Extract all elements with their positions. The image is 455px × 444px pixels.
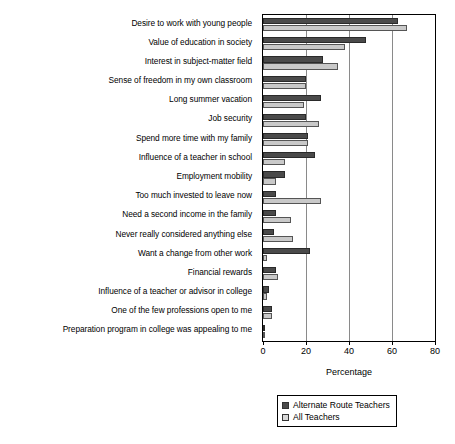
category-label: Never really considered anything else <box>115 230 252 239</box>
bar <box>263 63 338 69</box>
category-label: Preparation program in college was appea… <box>63 325 252 334</box>
bar-group <box>263 130 435 149</box>
bar <box>263 229 274 235</box>
category-label: Influence of a teacher in school <box>139 153 252 162</box>
category-label: Long summer vacation <box>169 95 252 104</box>
bar-group <box>263 322 435 341</box>
bar-group <box>263 207 435 226</box>
bar <box>263 306 272 312</box>
bar <box>263 140 308 146</box>
bar <box>263 325 265 331</box>
category-label: Employment mobility <box>176 172 252 181</box>
bar <box>263 44 345 50</box>
category-label: Job security <box>208 114 252 123</box>
bar-group <box>263 303 435 322</box>
bar-group <box>263 245 435 264</box>
bar <box>263 198 321 204</box>
category-label: Want a change from other work <box>138 249 252 258</box>
bar-group <box>263 149 435 168</box>
bar <box>263 293 267 299</box>
category-axis-labels: Desire to work with young peopleValue of… <box>0 14 256 340</box>
legend-item: All Teachers <box>282 411 390 423</box>
bar <box>263 37 366 43</box>
bar-group <box>263 188 435 207</box>
legend-label: Alternate Route Teachers <box>293 400 390 410</box>
bar <box>263 114 306 120</box>
legend-swatch-icon <box>282 402 289 409</box>
chart-legend: Alternate Route TeachersAll Teachers <box>277 395 397 427</box>
tick-label: 60 <box>387 346 397 357</box>
bar-group <box>263 92 435 111</box>
tick-label: 80 <box>430 346 440 357</box>
bar <box>263 171 285 177</box>
x-axis-ticks: 020406080 <box>262 341 436 363</box>
bar-group <box>263 53 435 72</box>
bar-group <box>263 111 435 130</box>
bar <box>263 248 310 254</box>
bar <box>263 236 293 242</box>
category-label: Spend more time with my family <box>136 134 252 143</box>
tick-mark <box>306 341 307 345</box>
bar <box>263 267 276 273</box>
tick-label: 40 <box>344 346 354 357</box>
bar <box>263 121 319 127</box>
bar <box>263 178 276 184</box>
legend-label: All Teachers <box>293 412 340 422</box>
bar-chart: Desire to work with young peopleValue of… <box>0 0 455 444</box>
tick-label: 20 <box>301 346 311 357</box>
bar <box>263 210 276 216</box>
bar <box>263 332 265 338</box>
bar <box>263 133 308 139</box>
bar <box>263 102 304 108</box>
bar-group <box>263 73 435 92</box>
bar <box>263 83 306 89</box>
x-axis-title: Percentage <box>262 367 436 377</box>
bars-layer <box>263 15 435 341</box>
bar <box>263 217 291 223</box>
tick-mark <box>392 341 393 345</box>
bar <box>263 95 321 101</box>
bar-group <box>263 264 435 283</box>
bar <box>263 25 407 31</box>
bar <box>263 76 306 82</box>
category-label: Interest in subject-matter field <box>145 57 252 66</box>
legend-item: Alternate Route Teachers <box>282 399 390 411</box>
tick-mark <box>263 341 264 345</box>
bar <box>263 255 267 261</box>
bar <box>263 152 315 158</box>
plot-area <box>262 14 436 342</box>
category-label: One of the few professions open to me <box>111 306 252 315</box>
legend-swatch-icon <box>282 414 289 421</box>
bar <box>263 313 272 319</box>
bar <box>263 274 278 280</box>
tick-mark <box>349 341 350 345</box>
bar-group <box>263 168 435 187</box>
bar <box>263 56 323 62</box>
category-label: Need a second income in the family <box>122 210 252 219</box>
category-label: Influence of a teacher or advisor in col… <box>98 287 252 296</box>
tick-mark <box>435 341 436 345</box>
bar <box>263 286 269 292</box>
tick-label: 0 <box>260 346 265 357</box>
bar <box>263 18 398 24</box>
bar <box>263 191 276 197</box>
category-label: Financial rewards <box>188 268 252 277</box>
category-label: Sense of freedom in my own classroom <box>109 76 252 85</box>
bar-group <box>263 34 435 53</box>
bar-group <box>263 226 435 245</box>
category-label: Desire to work with young people <box>131 19 252 28</box>
category-label: Value of education in society <box>148 38 252 47</box>
category-label: Too much invested to leave now <box>135 191 252 200</box>
bar-group <box>263 283 435 302</box>
bar <box>263 159 285 165</box>
bar-group <box>263 15 435 34</box>
